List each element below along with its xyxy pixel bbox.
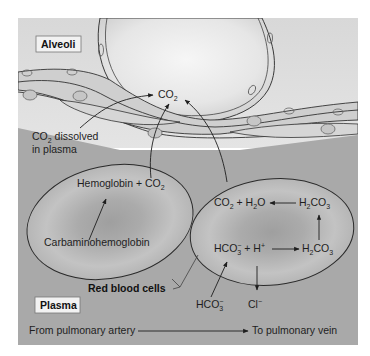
co2-h2o-label: CO2 + H2O: [214, 196, 265, 210]
in-plasma-label: in plasma: [32, 143, 77, 155]
hco3-h-label: HCO3− + H+: [214, 242, 265, 256]
carbaminohemoglobin-label: Carbaminohemoglobin: [44, 236, 150, 248]
hco3-plasma-label: HCO3−: [196, 298, 223, 312]
to-pulmonary-vein-label: To pulmonary vein: [252, 324, 337, 336]
h2co3-bottom-label: H2CO3: [302, 242, 333, 256]
co2-dissolved-label: CO2 dissolved: [32, 130, 99, 144]
h2co3-top-label: H2CO3: [299, 196, 330, 210]
from-pulmonary-artery-label: From pulmonary artery: [29, 324, 136, 336]
hemoglobin-co2-label: Hemoglobin + CO2: [77, 177, 165, 191]
red-blood-cells-label: Red blood cells: [88, 282, 166, 294]
alveoli-label: Alveoli: [41, 38, 76, 50]
plasma-label: Plasma: [40, 299, 77, 311]
co2-transport-diagram: Alveoli Plasma CO2 CO2 dissolved in plas…: [0, 0, 370, 356]
